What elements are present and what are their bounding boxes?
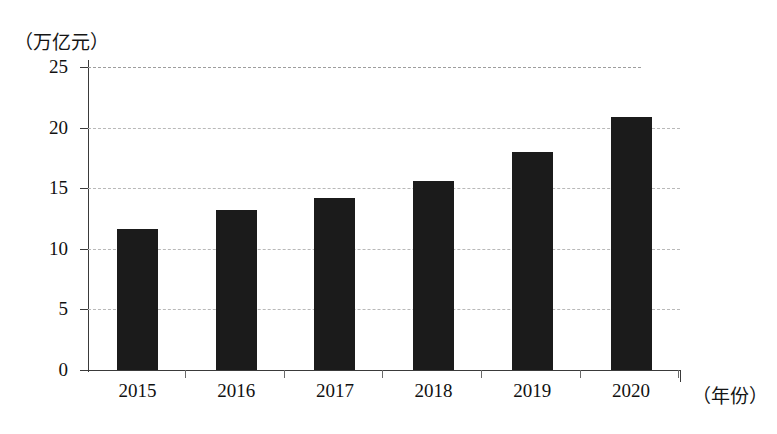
x-axis-tick	[185, 370, 186, 378]
x-axis-line	[88, 370, 681, 371]
bar	[611, 117, 652, 370]
x-axis-end-tick	[680, 370, 681, 382]
bar	[512, 152, 553, 370]
y-axis-tick-label: 20	[20, 118, 68, 137]
x-axis-tick	[678, 370, 679, 378]
bar-chart: （万亿元） 0510152025 20152016201720182019202…	[0, 0, 777, 434]
bar	[314, 198, 355, 370]
x-axis-tick-label: 2018	[389, 381, 479, 400]
x-axis-tick	[382, 370, 383, 378]
bar	[117, 229, 158, 370]
y-axis-tick-label: 0	[20, 360, 68, 379]
gridline	[88, 309, 680, 310]
x-axis-tick-label: 2017	[290, 381, 380, 400]
x-axis-tick-label: 2015	[93, 381, 183, 400]
y-axis-tick-label: 10	[20, 239, 68, 258]
gridline	[88, 128, 680, 129]
x-axis-tick-label: 2019	[487, 381, 577, 400]
y-axis-tick-label: 15	[20, 178, 68, 197]
gridline	[88, 67, 641, 68]
x-axis-tick	[284, 370, 285, 378]
x-axis-tick-label: 2020	[586, 381, 676, 400]
x-axis-tick	[580, 370, 581, 378]
gridline	[88, 188, 680, 189]
x-axis-tick	[481, 370, 482, 378]
gridline	[88, 249, 680, 250]
bar	[216, 210, 257, 370]
x-axis-tick-label: 2016	[191, 381, 281, 400]
x-axis-unit-label: （年份）	[692, 381, 768, 408]
bar	[413, 181, 454, 370]
y-axis-tick	[80, 370, 89, 371]
plot-area	[88, 67, 680, 370]
y-axis-unit-label: （万亿元）	[14, 27, 109, 54]
y-axis-tick-label: 25	[20, 57, 68, 76]
y-axis-tick-label: 5	[20, 299, 68, 318]
